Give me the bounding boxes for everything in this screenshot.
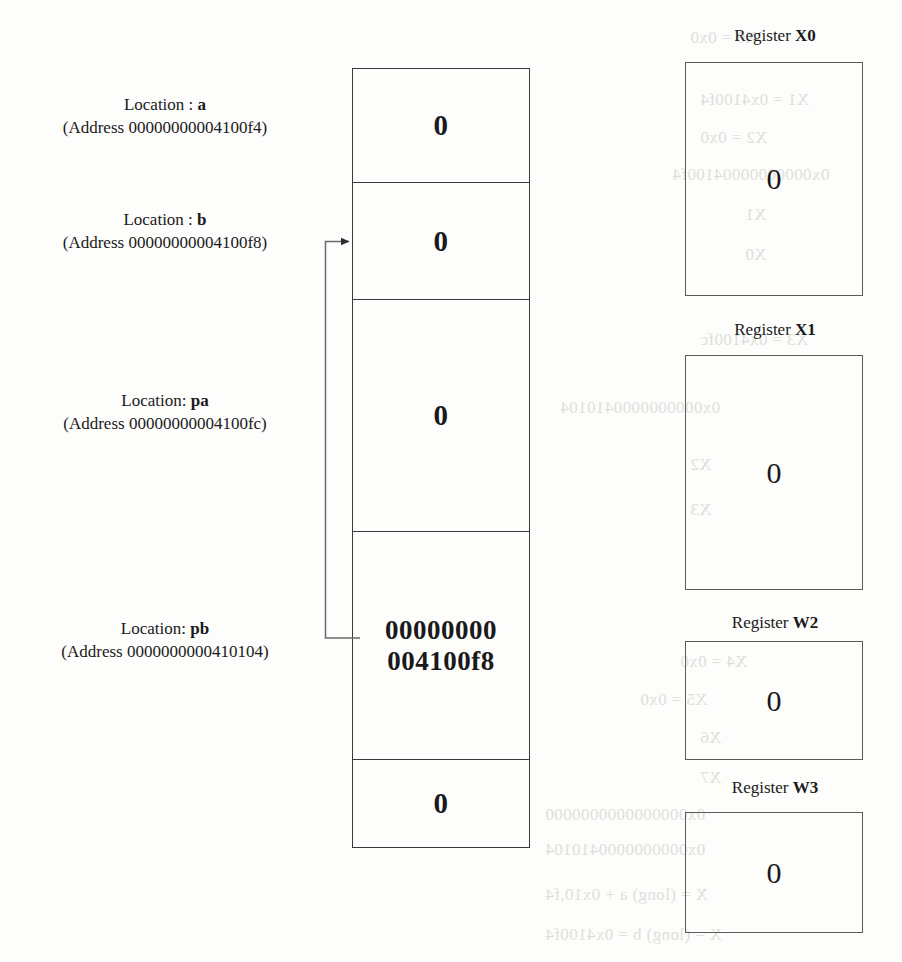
memory-cell-a[interactable]: 0 [353,69,529,182]
register-label-w2: Register W2 [660,613,890,633]
register-label-w2-name: W2 [793,613,819,632]
register-box-w3[interactable]: 0 [685,812,863,933]
location-label-b-line1: Location : b [0,209,330,232]
register-value-w2: 0 [767,686,782,716]
location-label-pb-address: (Address 0000000000410104) [0,641,330,664]
location-label-pa-address: (Address 00000000004100fc) [0,413,330,436]
memory-cell-extra-value: 0 [434,787,449,819]
register-label-w3-name: W3 [793,778,819,797]
register-label-x0-name: X0 [795,26,816,45]
memory-cell-pb-value-line1: 00000000 [385,615,497,645]
register-box-x1[interactable]: 0 [685,355,863,590]
register-value-x0: 0 [767,164,782,194]
location-label-pa-line1: Location: pa [0,390,330,413]
register-box-x0[interactable]: 0 [685,62,863,296]
location-label-pb-line1: Location: pb [0,618,330,641]
register-box-w2[interactable]: 0 [685,641,863,760]
location-label-b-prefix: Location : [123,210,197,229]
memory-cell-pa[interactable]: 0 [353,299,529,531]
memory-cell-pa-value: 0 [434,399,449,431]
register-label-w3-prefix: Register [732,778,793,797]
location-label-b: Location : b (Address 00000000004100f8) [0,209,330,255]
register-value-x1: 0 [767,458,782,488]
register-label-x1-prefix: Register [734,320,795,339]
location-label-pb-prefix: Location: [121,619,190,638]
register-label-x0: Register X0 [660,26,890,46]
register-label-x1-name: X1 [795,320,816,339]
location-label-a-address: (Address 00000000004100f4) [0,117,330,140]
location-label-b-address: (Address 00000000004100f8) [0,232,330,255]
diagram-page: X0 = 0x0 X1 = 0x4100f4 X2 = 0x0 0x000000… [0,0,902,962]
memory-cell-pb-value-line2: 004100f8 [387,646,495,676]
register-label-x0-prefix: Register [734,26,795,45]
location-label-b-symbol: b [197,210,206,229]
memory-cell-extra[interactable]: 0 [353,759,529,847]
ghost-text: 0x0000000000410104 [545,840,705,860]
location-label-a-symbol: a [198,95,207,114]
ghost-text: X = (long) a + 0x10,f4 [545,885,708,905]
register-value-w3: 0 [767,858,782,888]
location-label-a: Location : a (Address 00000000004100f4) [0,94,330,140]
location-label-a-prefix: Location : [124,95,198,114]
location-label-a-line1: Location : a [0,94,330,117]
location-label-pa: Location: pa (Address 00000000004100fc) [0,390,330,436]
register-label-w3: Register W3 [660,778,890,798]
location-label-pa-symbol: pa [191,391,209,410]
ghost-text: 0x0000000000000000 [545,805,705,825]
memory-cell-b-value: 0 [434,225,449,257]
memory-cell-pb[interactable]: 00000000004100f8 [353,531,529,759]
memory-cell-b[interactable]: 0 [353,182,529,299]
register-label-x1: Register X1 [660,320,890,340]
location-label-pb: Location: pb (Address 0000000000410104) [0,618,330,664]
memory-column: 0 0 0 00000000004100f8 0 [352,68,530,848]
memory-cell-a-value: 0 [434,109,449,141]
location-label-pa-prefix: Location: [121,391,190,410]
location-label-pb-symbol: pb [190,619,209,638]
memory-cell-pb-value: 00000000004100f8 [385,615,497,675]
register-label-w2-prefix: Register [732,613,793,632]
